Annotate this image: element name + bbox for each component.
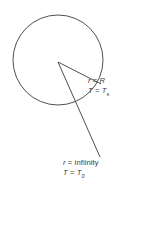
surface-radius-line: r = R xyxy=(88,76,109,86)
far-field-radius-equals: = xyxy=(66,158,75,167)
surface-boundary-label: r = R T = Ts xyxy=(88,76,109,95)
far-field-radius-line: r = infiinity xyxy=(63,158,99,168)
far-field-temperature-equals: = xyxy=(68,168,77,177)
surface-temperature-equals: = xyxy=(93,86,102,95)
surface-radius-value: R xyxy=(100,76,106,85)
surface-temperature-subscript: s xyxy=(106,90,109,96)
far-field-label: r = infiinity T = T0 xyxy=(63,158,99,177)
surface-temperature-line: T = Ts xyxy=(88,86,109,96)
far-field-radius-value: infiinity xyxy=(75,158,99,167)
surface-radius-equals: = xyxy=(91,76,100,85)
far-field-temperature-subscript: 0 xyxy=(81,172,84,178)
far-field-temperature-line: T = T0 xyxy=(63,168,99,178)
